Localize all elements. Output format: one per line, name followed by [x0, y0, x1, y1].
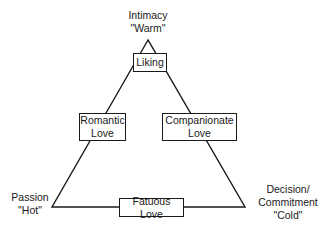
decision-label: Decision/: [253, 183, 323, 196]
fatuous-label: Fatuous Love: [120, 195, 183, 221]
commitment-label: Commitment: [253, 196, 323, 209]
vertex-decision-commitment: Decision/ Commitment "Cold": [253, 183, 323, 222]
intimacy-sub: "Warm": [118, 22, 178, 35]
box-liking: Liking: [133, 53, 167, 72]
box-romantic-love: Romantic Love: [79, 113, 126, 141]
vertex-passion: Passion "Hot": [8, 191, 52, 217]
companionate-line1: Companionate: [165, 114, 233, 127]
intimacy-label: Intimacy: [118, 9, 178, 22]
commitment-sub: "Cold": [253, 209, 323, 222]
companionate-line2: Love: [188, 127, 211, 140]
passion-label: Passion: [8, 191, 52, 204]
romantic-line2: Love: [91, 127, 114, 140]
box-companionate-love: Companionate Love: [162, 113, 237, 141]
passion-sub: "Hot": [8, 204, 52, 217]
liking-label: Liking: [136, 56, 163, 69]
romantic-line1: Romantic: [80, 114, 124, 127]
vertex-intimacy: Intimacy "Warm": [118, 9, 178, 35]
box-fatuous-love: Fatuous Love: [119, 198, 184, 217]
